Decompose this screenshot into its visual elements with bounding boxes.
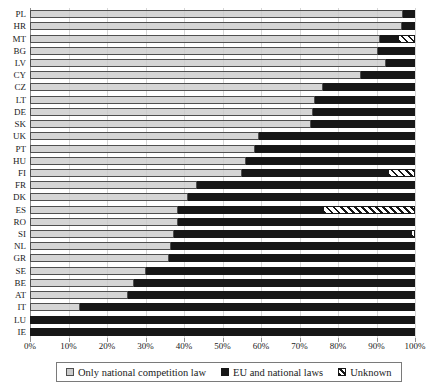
country-label: RO — [0, 217, 26, 226]
bar-track — [30, 218, 415, 226]
bar-track — [30, 230, 415, 238]
country-label: SE — [0, 266, 26, 275]
bar-segment-eu-and-national-laws — [311, 120, 415, 128]
country-label: SI — [0, 230, 26, 239]
legend-item-eu-and-national-laws: EU and national laws — [221, 367, 323, 378]
bar-segment-eu-and-national-laws — [380, 35, 397, 43]
bar-row: NL — [30, 240, 415, 252]
bar-row: ES — [30, 204, 415, 216]
bar-track — [30, 157, 415, 165]
country-label: PL — [0, 10, 26, 19]
bar-row: IE — [30, 326, 415, 338]
country-label: CZ — [0, 83, 26, 92]
bar-segment-only-national-competition-law — [30, 267, 146, 275]
country-label: DK — [0, 193, 26, 202]
bar-row: LU — [30, 313, 415, 325]
bar-segment-only-national-competition-law — [30, 47, 378, 55]
bar-segment-only-national-competition-law — [30, 193, 188, 201]
legend-swatch-only-national-competition-law — [66, 368, 74, 376]
bar-track — [30, 206, 415, 214]
bar-segment-eu-and-national-laws — [178, 206, 322, 214]
bar-row: RO — [30, 216, 415, 228]
country-label: LU — [0, 315, 26, 324]
legend-label: EU and national laws — [233, 367, 323, 378]
country-label: IT — [0, 303, 26, 312]
bar-track — [30, 242, 415, 250]
x-axis-label: 10% — [60, 341, 77, 351]
gridline — [415, 8, 416, 338]
country-label: LT — [0, 95, 26, 104]
bar-segment-only-national-competition-law — [30, 145, 255, 153]
x-axis-label: 50% — [214, 341, 231, 351]
bar-row: HR — [30, 20, 415, 32]
country-label: CY — [0, 71, 26, 80]
legend-item-only-national-competition-law: Only national competition law — [66, 367, 206, 378]
bar-segment-unknown — [411, 230, 415, 238]
bar-track — [30, 267, 415, 275]
bar-segment-eu-and-national-laws — [259, 132, 415, 140]
bar-track — [30, 71, 415, 79]
bar-track — [30, 303, 415, 311]
bar-segment-eu-and-national-laws — [323, 83, 415, 91]
x-axis-label: 30% — [137, 341, 154, 351]
bar-track — [30, 35, 415, 43]
bar-segment-only-national-competition-law — [30, 96, 315, 104]
country-label: IE — [0, 327, 26, 336]
bar-segment-only-national-competition-law — [30, 254, 169, 262]
bar-segment-only-national-competition-law — [30, 22, 402, 30]
bar-row: CZ — [30, 81, 415, 93]
bar-track — [30, 145, 415, 153]
country-label: NL — [0, 242, 26, 251]
bar-segment-only-national-competition-law — [30, 230, 174, 238]
bar-segment-eu-and-national-laws — [315, 96, 415, 104]
x-axis-label: 100% — [405, 341, 426, 351]
x-axis-label: 90% — [368, 341, 385, 351]
country-label: FR — [0, 181, 26, 190]
bar-track — [30, 291, 415, 299]
bar-segment-only-national-competition-law — [30, 10, 403, 18]
bar-row: LV — [30, 57, 415, 69]
bar-segment-unknown — [323, 206, 415, 214]
bar-segment-only-national-competition-law — [30, 279, 134, 287]
bar-row: SK — [30, 118, 415, 130]
bar-row: CY — [30, 69, 415, 81]
bar-segment-only-national-competition-law — [30, 132, 259, 140]
bar-segment-only-national-competition-law — [30, 35, 380, 43]
bar-track — [30, 181, 415, 189]
bar-track — [30, 254, 415, 262]
x-axis-label: 80% — [330, 341, 347, 351]
bar-row: PL — [30, 8, 415, 20]
bar-segment-only-national-competition-law — [30, 71, 361, 79]
bar-track — [30, 169, 415, 177]
bar-row: PT — [30, 142, 415, 154]
legend-label: Only national competition law — [78, 367, 206, 378]
legend-item-unknown: Unknown — [338, 367, 391, 378]
bar-row: FR — [30, 179, 415, 191]
country-label: UK — [0, 132, 26, 141]
bar-track — [30, 279, 415, 287]
bar-segment-only-national-competition-law — [30, 108, 313, 116]
bar-segment-only-national-competition-law — [30, 120, 311, 128]
bar-segment-only-national-competition-law — [30, 59, 386, 67]
bar-track — [30, 47, 415, 55]
bar-segment-only-national-competition-law — [30, 169, 242, 177]
x-axis-label: 70% — [291, 341, 308, 351]
bar-segment-eu-and-national-laws — [30, 328, 415, 336]
bar-row: IT — [30, 301, 415, 313]
bar-segment-only-national-competition-law — [30, 83, 323, 91]
bar-segment-eu-and-national-laws — [361, 71, 415, 79]
bar-segment-eu-and-national-laws — [255, 145, 415, 153]
bar-segment-eu-and-national-laws — [134, 279, 415, 287]
country-label: HU — [0, 156, 26, 165]
bar-track — [30, 59, 415, 67]
legend: Only national competition lawEU and nati… — [56, 362, 402, 382]
bar-track — [30, 96, 415, 104]
bar-segment-only-national-competition-law — [30, 181, 197, 189]
bar-segment-eu-and-national-laws — [174, 230, 411, 238]
bar-segment-eu-and-national-laws — [30, 316, 415, 324]
bar-segment-only-national-competition-law — [30, 206, 178, 214]
country-label: ES — [0, 205, 26, 214]
bar-track — [30, 22, 415, 30]
bar-segment-eu-and-national-laws — [197, 181, 415, 189]
bar-row: UK — [30, 130, 415, 142]
